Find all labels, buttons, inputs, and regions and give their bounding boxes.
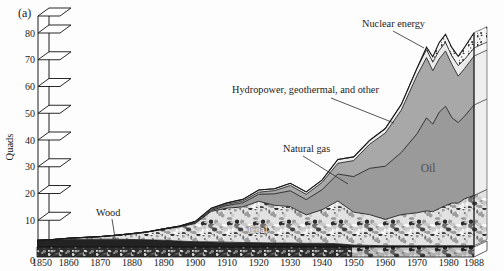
axis-shelf — [38, 105, 71, 113]
axis-shelf — [38, 52, 71, 60]
y-tick-label: 50 — [25, 108, 35, 119]
axis-shelf — [38, 79, 71, 87]
x-axis-labels: 1850186018701880189019001910192019301940… — [32, 257, 484, 268]
floor-front-wood — [37, 247, 352, 257]
y-tick-label: 70 — [25, 54, 35, 65]
series-label-oil: Oil — [421, 162, 436, 174]
x-tick-label: 1950 — [344, 257, 364, 268]
axis-shelf — [38, 25, 71, 33]
stacked-area-chart: 01020304050607080Quads185018601870188018… — [0, 0, 504, 271]
side-wall — [474, 99, 487, 195]
y-tick-label: 10 — [25, 215, 35, 226]
series-label-natural-gas: Natural gas — [283, 143, 330, 154]
leader-line — [393, 31, 424, 48]
x-tick-label: 1870 — [90, 257, 110, 268]
axis-shelf — [38, 186, 71, 194]
axis-shelf — [38, 132, 71, 140]
x-tick-label: 1900 — [185, 257, 205, 268]
x-tick-label: 1880 — [122, 257, 142, 268]
y-axis-title: Quads — [4, 134, 15, 161]
y-tick-label: 40 — [25, 135, 35, 146]
side-wall — [474, 50, 487, 105]
series-label-coal: Coal — [248, 224, 268, 235]
x-tick-label: 1910 — [217, 257, 237, 268]
series-label-nuclear-energy: Nuclear energy — [362, 18, 426, 29]
x-tick-label: 1850 — [32, 257, 52, 268]
x-tick-label: 1860 — [59, 257, 79, 268]
x-tick-label: 1960 — [375, 257, 395, 268]
y-tick-label: 60 — [25, 81, 35, 92]
y-axis-ladder: 01020304050607080Quads — [4, 8, 71, 266]
axis-shelf — [38, 8, 71, 16]
x-tick-label: 1970 — [407, 257, 427, 268]
axis-shelf — [38, 159, 71, 167]
x-tick-label: 1988 — [464, 257, 484, 268]
x-tick-label: 1940 — [312, 257, 332, 268]
y-tick-label: 80 — [25, 28, 35, 39]
y-tick-label: 30 — [25, 161, 35, 172]
side-wall — [474, 189, 487, 245]
series-label-wood: Wood — [96, 207, 121, 218]
x-tick-label: 1890 — [154, 257, 174, 268]
leader-line — [331, 98, 394, 123]
energy-consumption-figure: (a) 01020304050607080Quads18501860187018… — [0, 0, 504, 271]
series-label-hydropower-geothermal-and-other: Hydropower, geothermal, and other — [232, 84, 379, 95]
axis-shelf — [38, 212, 71, 220]
x-tick-label: 1980 — [439, 257, 459, 268]
x-tick-label: 1920 — [249, 257, 269, 268]
y-tick-label: 20 — [25, 188, 35, 199]
x-tick-label: 1930 — [280, 257, 300, 268]
